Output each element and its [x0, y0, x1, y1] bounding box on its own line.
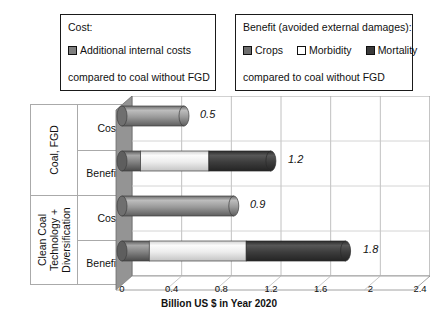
- category-group-coal-fgd: Coal, FGD Cost Benefit: [30, 104, 122, 195]
- category-group-label-coal-fgd: Coal, FGD: [31, 105, 77, 195]
- data-label-clean-coal-cost: 0.9: [250, 198, 265, 210]
- bar-clean-coal-benefit: [117, 241, 351, 261]
- legend-label-additional-internal-costs: Additional internal costs: [80, 44, 191, 56]
- legend-cost-entries: Additional internal costs: [68, 44, 191, 56]
- category-group-label-clean-coal: Clean CoalTechnology +Diversification: [31, 196, 77, 284]
- xtick-5: 2: [368, 283, 373, 294]
- legend-cost-footnote: compared to coal without FGD: [68, 71, 210, 83]
- legend-benefit-footnote: compared to coal without FGD: [243, 71, 385, 83]
- xtick-0: 0: [119, 283, 124, 294]
- legend-benefit-entries: Crops Morbidity Mortality: [243, 44, 417, 56]
- legend-cost-title: Cost:: [68, 21, 93, 33]
- legend-entry-morbidity: Morbidity: [297, 44, 352, 56]
- legend-cost: Cost: Additional internal costs compared…: [60, 14, 216, 91]
- swatch-additional-internal-costs-icon: [68, 46, 77, 55]
- xtick-2: 0.8: [215, 283, 228, 294]
- legend-benefit: Benefit (avoided external damages): Crop…: [235, 14, 413, 91]
- swatch-crops-icon: [243, 46, 252, 55]
- xtick-4: 1.6: [314, 283, 327, 294]
- plot-svg: [110, 96, 430, 296]
- xtick-1: 0.4: [165, 283, 178, 294]
- category-axis: Coal, FGD Cost Benefit Clean CoalTechnol…: [30, 104, 122, 285]
- bar-coal-fgd-cost: [117, 106, 189, 126]
- xtick-6: 2.4: [413, 283, 426, 294]
- swatch-morbidity-icon: [297, 46, 306, 55]
- bar-coal-fgd-benefit: [117, 151, 276, 171]
- data-label-coal-fgd-cost: 0.5: [200, 108, 215, 120]
- x-axis-title: Billion US $ in Year 2020: [0, 298, 438, 309]
- data-label-clean-coal-benefit: 1.8: [363, 243, 378, 255]
- legend-label-mortality: Mortality: [378, 44, 418, 56]
- legend-label-morbidity: Morbidity: [309, 44, 352, 56]
- plot-area: 0.5 1.2 0.9 1.8: [110, 96, 430, 296]
- xtick-3: 1.2: [264, 283, 277, 294]
- legend-benefit-title: Benefit (avoided external damages):: [243, 21, 412, 33]
- bar-clean-coal-cost: [117, 196, 239, 216]
- legend-entry-mortality: Mortality: [366, 44, 418, 56]
- category-group-clean-coal: Clean CoalTechnology +Diversification Co…: [30, 195, 122, 285]
- x-axis-ticks: 0 0.4 0.8 1.2 1.6 2 2.4: [0, 283, 438, 299]
- swatch-mortality-icon: [366, 46, 375, 55]
- chart: Coal, FGD Cost Benefit Clean CoalTechnol…: [0, 96, 438, 322]
- category-group-label-clean-coal-text: Clean CoalTechnology +Diversification: [36, 207, 72, 272]
- legend-entry-additional-internal-costs: Additional internal costs: [68, 44, 191, 56]
- chart-screenshot: Cost: Additional internal costs compared…: [0, 0, 438, 322]
- legend-entry-crops: Crops: [243, 44, 283, 56]
- legend-label-crops: Crops: [255, 44, 283, 56]
- data-label-coal-fgd-benefit: 1.2: [288, 153, 303, 165]
